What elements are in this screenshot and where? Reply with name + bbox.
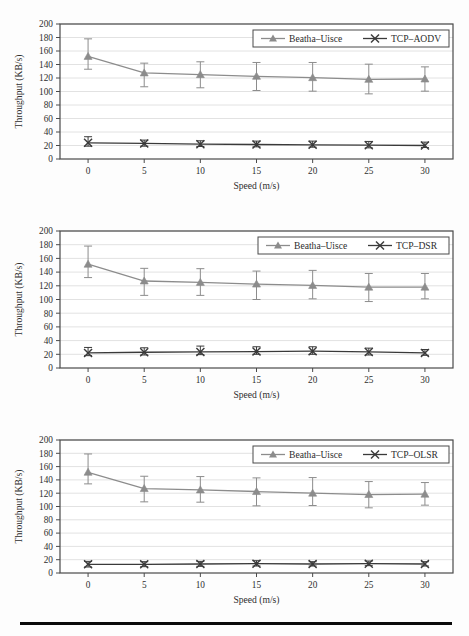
legend-label-beatha: Beatha–Uisce <box>289 33 342 44</box>
chart-plot-1: 020406080100120140160180200051015202530S… <box>0 207 469 414</box>
xtick-label: 25 <box>364 166 374 176</box>
ytick-label: 0 <box>48 154 53 164</box>
y-axis-label: Throughput (KB/s) <box>13 263 25 337</box>
ytick-label: 160 <box>39 462 53 472</box>
ytick-label: 60 <box>44 114 54 124</box>
ytick-label: 140 <box>39 475 53 485</box>
ytick-label: 40 <box>44 542 54 552</box>
xtick-label: 25 <box>364 375 374 385</box>
ytick-label: 60 <box>44 528 54 538</box>
xtick-label: 5 <box>142 166 147 176</box>
ytick-label: 0 <box>48 568 53 578</box>
figure-container: 020406080100120140160180200051015202530S… <box>0 0 469 636</box>
ytick-label: 0 <box>48 363 53 373</box>
xtick-label: 15 <box>252 166 262 176</box>
xtick-label: 0 <box>86 580 91 590</box>
legend-label-beatha: Beatha–Uisce <box>289 449 342 460</box>
ytick-label: 160 <box>39 254 53 264</box>
ytick-label: 80 <box>44 515 54 525</box>
ytick-label: 20 <box>44 555 54 565</box>
x-axis-label: Speed (m/s) <box>233 389 279 401</box>
ytick-label: 80 <box>44 100 54 110</box>
xtick-label: 20 <box>308 375 318 385</box>
xtick-label: 10 <box>196 580 206 590</box>
x-axis-label: Speed (m/s) <box>233 180 279 192</box>
chart-panel-dsr: 020406080100120140160180200051015202530S… <box>0 207 469 414</box>
chart-panel-olsr: 020406080100120140160180200051015202530S… <box>0 416 469 619</box>
chart-panel-aodv: 020406080100120140160180200051015202530S… <box>0 0 469 205</box>
ytick-label: 200 <box>39 226 53 236</box>
xtick-label: 5 <box>142 375 147 385</box>
ytick-label: 140 <box>39 60 53 70</box>
y-axis-label: Throughput (KB/s) <box>13 470 25 544</box>
ytick-label: 120 <box>39 489 53 499</box>
xtick-label: 15 <box>252 375 262 385</box>
legend-label-tcp: TCP–DSR <box>396 240 438 251</box>
xtick-label: 15 <box>252 580 262 590</box>
xtick-label: 30 <box>420 580 430 590</box>
x-axis-label: Speed (m/s) <box>233 594 279 606</box>
ytick-label: 120 <box>39 281 53 291</box>
ytick-label: 140 <box>39 267 53 277</box>
xtick-label: 30 <box>420 166 430 176</box>
ytick-label: 100 <box>39 502 53 512</box>
legend: Beatha–UisceTCP–DSR <box>258 237 449 254</box>
ytick-label: 100 <box>39 295 53 305</box>
chart-plot-2: 020406080100120140160180200051015202530S… <box>0 416 469 619</box>
xtick-label: 30 <box>420 375 430 385</box>
ytick-label: 40 <box>44 127 54 137</box>
legend-label-tcp: TCP–AODV <box>391 33 441 44</box>
legend-label-beatha: Beatha–Uisce <box>294 240 347 251</box>
ytick-label: 180 <box>39 240 53 250</box>
chart-plot-0: 020406080100120140160180200051015202530S… <box>0 0 469 205</box>
ytick-label: 200 <box>39 435 53 445</box>
ytick-label: 20 <box>44 350 54 360</box>
xtick-label: 10 <box>196 375 206 385</box>
xtick-label: 20 <box>308 166 318 176</box>
xtick-label: 5 <box>142 580 147 590</box>
ytick-label: 80 <box>44 309 54 319</box>
xtick-label: 10 <box>196 166 206 176</box>
legend-label-tcp: TCP–OLSR <box>391 449 439 460</box>
ytick-label: 180 <box>39 449 53 459</box>
ytick-label: 200 <box>39 19 53 29</box>
ytick-label: 60 <box>44 322 54 332</box>
ytick-label: 160 <box>39 46 53 56</box>
ytick-label: 120 <box>39 73 53 83</box>
ytick-label: 180 <box>39 33 53 43</box>
xtick-label: 20 <box>308 580 318 590</box>
ytick-label: 20 <box>44 141 54 151</box>
xtick-label: 0 <box>86 166 91 176</box>
ytick-label: 100 <box>39 87 53 97</box>
legend: Beatha–UisceTCP–AODV <box>253 30 449 47</box>
bottom-horizontal-rule <box>20 622 452 625</box>
xtick-label: 0 <box>86 375 91 385</box>
y-axis-label: Throughput (KB/s) <box>13 55 25 129</box>
legend: Beatha–UisceTCP–OLSR <box>253 446 449 463</box>
xtick-label: 25 <box>364 580 374 590</box>
ytick-label: 40 <box>44 336 54 346</box>
